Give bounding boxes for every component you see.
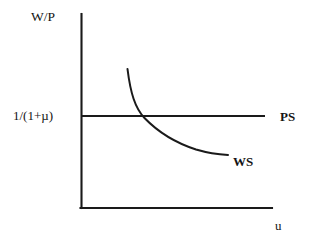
- ws-ps-diagram: W/P 1/(1+µ) PS WS u: [0, 0, 310, 240]
- ws-curve-line: [128, 69, 229, 155]
- y-axis-tick-label: 1/(1+µ): [13, 109, 53, 122]
- y-axis-title: W/P: [31, 10, 55, 24]
- x-axis-title: u: [275, 219, 282, 232]
- ws-curve-label: WS: [233, 155, 253, 168]
- ps-curve-label: PS: [280, 110, 295, 123]
